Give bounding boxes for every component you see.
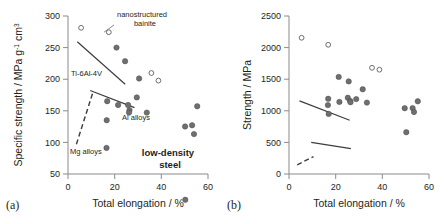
data-point-filled (136, 76, 141, 81)
trendline-al-alloys-b (311, 142, 351, 148)
y-tick-label: 300 (45, 11, 60, 21)
data-point-filled (402, 106, 407, 111)
trendlines-b (297, 101, 351, 165)
data-point-filled (104, 118, 109, 123)
data-point-open (299, 35, 304, 40)
y-tick-label: 500 (266, 138, 281, 148)
series-low-density-steel-a (104, 45, 200, 203)
data-point-filled (122, 59, 127, 64)
trendline-mg-alloys-b (297, 157, 313, 165)
data-point-filled (325, 102, 330, 107)
y-tick-label: 2500 (261, 11, 281, 21)
y-axis-title-a: Specific strength / MPa g-1 cm3 (12, 23, 24, 166)
x-tick-label: 0 (65, 182, 70, 192)
y-axis-title-b: Strength / MPa (241, 60, 253, 130)
series-nanostructured-bainite-b (299, 35, 382, 72)
data-point-filled (346, 79, 351, 84)
x-tick-label: 40 (156, 182, 166, 192)
data-point-filled (326, 111, 331, 116)
panel-a: 50 100 150 200 250 300 0 20 40 60 Total … (0, 0, 221, 223)
data-point-filled (125, 102, 130, 107)
y-tick-label: 50 (50, 169, 60, 179)
figure-container: 50 100 150 200 250 300 0 20 40 60 Total … (0, 0, 442, 223)
x-tick-label: 20 (110, 182, 120, 192)
data-point-filled (115, 102, 120, 107)
data-point-open (377, 67, 382, 72)
data-point-open (326, 42, 331, 47)
y-axis-title-sup2-a: 3 (13, 23, 20, 27)
trendline-mg-alloys-a (76, 94, 92, 145)
y-tick-label: 150 (45, 106, 60, 116)
data-point-filled (337, 99, 342, 104)
data-point-filled (183, 197, 188, 202)
panel-a-plot: 50 100 150 200 250 300 0 20 40 60 Total … (0, 0, 221, 223)
trendline-ti-6al-4v-b (300, 101, 350, 120)
annotation-al-alloys: Al alloys (122, 113, 150, 122)
series-low-density-steel-b (325, 74, 420, 135)
y-tick-label: 200 (45, 74, 60, 84)
y-ticks-b (284, 16, 289, 174)
data-point-filled (360, 87, 365, 92)
data-point-filled (354, 96, 359, 101)
panel-label-a: (a) (6, 198, 19, 212)
x-tick-label: 60 (203, 182, 213, 192)
annotation-low-density-steel-line1: low-density (142, 147, 195, 158)
data-point-filled (191, 131, 196, 136)
x-tick-label: 40 (377, 182, 387, 192)
data-point-open (79, 25, 84, 30)
y-tick-label: 1500 (261, 74, 281, 84)
x-axis-title-b: Total elongation / % (313, 197, 405, 209)
data-point-filled (348, 100, 353, 105)
data-point-open (106, 30, 111, 35)
data-point-filled (104, 145, 109, 150)
y-axis-title-text-b: Strength / MPa (241, 60, 253, 130)
annotation-low-density-steel-line2: steel (159, 159, 181, 170)
y-axis-title-main-a: Specific strength / MPa g (12, 50, 24, 167)
data-point-filled (326, 96, 331, 101)
x-tick-label: 60 (424, 182, 434, 192)
annotation-ti-6al-4v: Ti-6Al-4V (71, 69, 102, 78)
svg-text:Specific strength / MPa g-1 cm: Specific strength / MPa g-1 cm3 (12, 23, 24, 166)
x-ticks-b (289, 174, 429, 179)
data-point-filled (415, 99, 420, 104)
panel-b: 0 500 1000 1500 2000 2500 0 20 40 60 Tot… (221, 0, 442, 223)
panel-label-b: (b) (227, 198, 241, 212)
x-tick-label: 20 (331, 182, 341, 192)
y-axis-title-tail-a: cm (12, 27, 24, 44)
panel-b-plot: 0 500 1000 1500 2000 2500 0 20 40 60 Tot… (221, 0, 442, 223)
data-point-filled (195, 104, 200, 109)
annotation-mg-alloys: Mg alloys (70, 147, 102, 156)
data-point-filled (134, 95, 139, 100)
x-axis-title-a: Total elongation / % (92, 197, 184, 209)
data-point-filled (411, 109, 416, 114)
data-point-filled (364, 100, 369, 105)
data-point-filled (182, 124, 187, 129)
y-tick-label: 2000 (261, 43, 281, 53)
y-tick-label: 250 (45, 43, 60, 53)
trendlines-a (76, 42, 134, 144)
annotation-nanostructured-bainite-line2: bainite (134, 19, 156, 28)
data-point-filled (189, 123, 194, 128)
y-ticks-a (63, 16, 68, 174)
data-point-open (156, 78, 161, 83)
data-point-filled (105, 99, 110, 104)
data-point-open (370, 65, 375, 70)
data-point-open (149, 71, 154, 76)
y-tick-label: 100 (45, 138, 60, 148)
y-tick-label: 1000 (261, 106, 281, 116)
y-tick-label: 0 (276, 169, 281, 179)
data-point-filled (404, 130, 409, 135)
data-point-filled (336, 74, 341, 79)
x-tick-label: 0 (286, 182, 291, 192)
data-point-filled (114, 45, 119, 50)
x-ticks-a (68, 174, 208, 179)
